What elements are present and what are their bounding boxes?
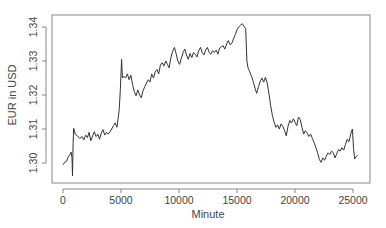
y-tick-label: 1.34 (27, 17, 39, 38)
y-tick-label: 1.31 (27, 119, 39, 140)
y-tick-label: 1.32 (27, 85, 39, 106)
y-axis: 1.301.311.321.331.34 (27, 17, 46, 174)
x-tick-label: 20000 (280, 194, 309, 206)
x-axis-title: Minute (191, 208, 224, 220)
x-tick-label: 5000 (109, 194, 133, 206)
y-axis-title: EUR in USD (6, 64, 18, 125)
x-tick-label: 25000 (338, 194, 367, 206)
y-tick-label: 1.33 (27, 51, 39, 72)
x-tick-label: 0 (60, 194, 66, 206)
x-tick-label: 10000 (164, 194, 193, 206)
x-tick-label: 15000 (222, 194, 251, 206)
price-line (63, 24, 358, 176)
y-tick-label: 1.30 (27, 153, 39, 174)
eur-usd-line-chart: 0500010000150002000025000 1.301.311.321.… (0, 0, 386, 228)
x-axis: 0500010000150002000025000 (60, 189, 368, 206)
plot-frame (52, 15, 370, 183)
